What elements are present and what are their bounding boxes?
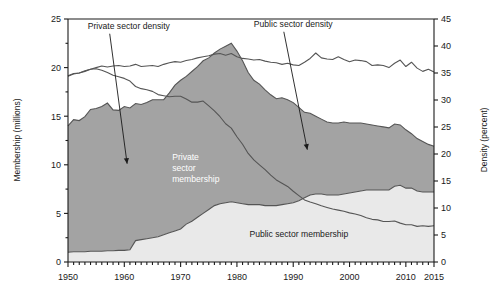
left-tick-20: 20 bbox=[51, 63, 61, 73]
x-tick-2010: 2010 bbox=[396, 272, 416, 282]
right-tick-5: 5 bbox=[441, 230, 446, 240]
right-tick-30: 30 bbox=[441, 95, 451, 105]
right-tick-10: 10 bbox=[441, 203, 451, 213]
x-tick-1990: 1990 bbox=[283, 272, 303, 282]
x-tick-1950: 1950 bbox=[58, 272, 78, 282]
x-tick-1980: 1980 bbox=[227, 272, 247, 282]
right-tick-45: 45 bbox=[441, 14, 451, 24]
right-tick-35: 35 bbox=[441, 68, 451, 78]
private-sector-density-annotation: Private sector density bbox=[88, 21, 171, 31]
left-tick-10: 10 bbox=[51, 160, 61, 170]
right-tick-20: 20 bbox=[441, 149, 451, 159]
left-tick-15: 15 bbox=[51, 112, 61, 122]
right-tick-25: 25 bbox=[441, 122, 451, 132]
right-tick-15: 15 bbox=[441, 176, 451, 186]
left-tick-25: 25 bbox=[51, 14, 61, 24]
right-tick-0: 0 bbox=[441, 257, 446, 267]
x-tick-2015: 2015 bbox=[424, 272, 444, 282]
public-sector-density-annotation: Public sector density bbox=[254, 19, 334, 29]
right-tick-40: 40 bbox=[441, 41, 451, 51]
left-tick-0: 0 bbox=[56, 257, 61, 267]
left-tick-5: 5 bbox=[56, 209, 61, 219]
left-axis-title: Membership (millions) bbox=[12, 98, 22, 181]
x-tick-2000: 2000 bbox=[340, 272, 360, 282]
x-tick-1970: 1970 bbox=[171, 272, 191, 282]
public-sector-membership-label: Public sector membership bbox=[249, 229, 348, 239]
right-axis-title: Density (percent) bbox=[479, 107, 489, 172]
chart-figure: 0510152025051015202530354045195019601970… bbox=[0, 0, 504, 304]
x-tick-1960: 1960 bbox=[114, 272, 134, 282]
union-membership-density-chart: 0510152025051015202530354045195019601970… bbox=[0, 0, 504, 304]
